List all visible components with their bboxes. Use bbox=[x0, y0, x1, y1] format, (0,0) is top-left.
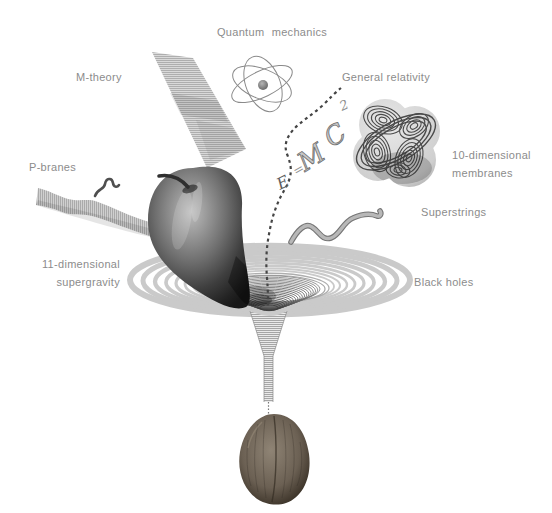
label-black-holes: Black holes bbox=[414, 276, 474, 289]
atom-icon bbox=[227, 51, 298, 118]
label-m-theory: M-theory bbox=[76, 71, 122, 84]
label-p-branes: P-branes bbox=[29, 161, 76, 174]
formula-c: C bbox=[318, 117, 352, 153]
rope-knot-icon bbox=[348, 92, 448, 192]
label-11d-supergravity-line2: supergravity bbox=[20, 273, 120, 291]
label-11d-supergravity: 11-dimensional supergravity bbox=[20, 255, 120, 291]
label-11d-supergravity-line1: 11-dimensional bbox=[20, 255, 120, 273]
label-superstrings: Superstrings bbox=[421, 206, 486, 219]
label-10d-membranes-line2: membranes bbox=[452, 164, 542, 182]
worm-string-icon bbox=[95, 179, 119, 196]
membrane-sheet-icon bbox=[152, 52, 246, 168]
emc2-formula: E = M C 2 bbox=[273, 97, 352, 194]
apple-icon bbox=[148, 167, 250, 309]
label-quantum-mechanics: Quantum mechanics bbox=[192, 26, 352, 39]
formula-exponent: 2 bbox=[336, 97, 351, 114]
label-general-relativity: General relativity bbox=[342, 71, 430, 84]
label-10d-membranes-line1: 10-dimensional bbox=[452, 146, 542, 164]
label-10d-membranes: 10-dimensional membranes bbox=[452, 146, 542, 182]
illustration-canvas: E = M C 2 Quantum mechanics M-theory Gen… bbox=[0, 0, 552, 513]
walnut-icon bbox=[239, 414, 309, 505]
superstring-icon bbox=[291, 211, 381, 242]
funnel-throat-icon bbox=[250, 311, 287, 414]
